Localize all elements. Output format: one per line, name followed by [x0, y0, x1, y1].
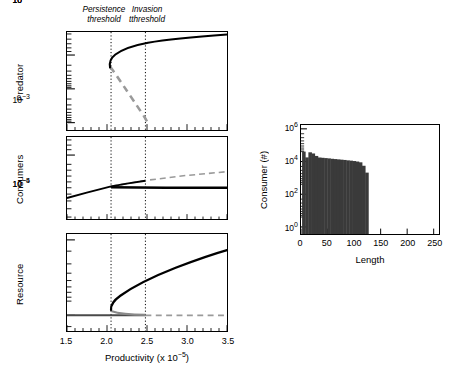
resource-panel: [66, 233, 228, 332]
xtick-4: 3.0: [181, 336, 194, 346]
xtick-1: 1.5: [60, 336, 73, 346]
length-axis-title: Length: [300, 254, 440, 265]
consumers-plot-area: [67, 137, 227, 219]
predator-unstable-branch: [110, 67, 148, 123]
length-xtick-6: 250: [427, 238, 442, 248]
length-xtick-labels: 0 50 100 150 200 250: [300, 238, 440, 250]
predator-stable-branch: [110, 35, 227, 68]
invasion-threshold-label-line1: Invasion: [132, 5, 163, 14]
length-xtick-2: 50: [322, 238, 332, 248]
persistence-threshold-label-line2: threshold: [87, 15, 121, 24]
consumer-count-ytick-labels: 106 104 102 100: [270, 124, 298, 235]
consumer-length-histogram-figure: Consumer (#) 106 104 102 100: [250, 0, 453, 378]
predator-plot-area: [67, 32, 227, 130]
predator-x-ticks: [67, 124, 227, 130]
length-xtick-3: 100: [346, 238, 361, 248]
xtick-2: 2.0: [100, 336, 113, 346]
predator-axis-title: Predator: [14, 44, 25, 120]
xtick-5: 3.5: [222, 336, 235, 346]
consumer-length-histogram-panel: [300, 124, 440, 235]
invasion-threshold-label-line2: tthreshold: [129, 15, 165, 24]
productivity-axis-title: Productivity (x 10−5): [66, 352, 228, 363]
invasion-threshold-label: Invasion tthreshold: [129, 5, 165, 25]
histogram-bars: [302, 152, 369, 234]
resource-plot-area: [67, 234, 227, 331]
consumers-y-minor-ticks: [67, 140, 71, 217]
productivity-xtick-labels: 1.5 2.0 2.5 3.0 3.5: [66, 336, 228, 348]
bifurcation-figure: Persistence threshold Invasion tthreshol…: [0, 0, 250, 378]
length-xtick-5: 200: [400, 238, 415, 248]
length-xtick-4: 150: [373, 238, 388, 248]
resource-upper-branch: [111, 250, 227, 310]
resource-axis-title: Resource: [14, 246, 25, 322]
resource-x-ticks: [67, 325, 227, 331]
predator-y-minor-ticks: [67, 34, 71, 121]
consumers-panel: [66, 136, 228, 220]
predator-panel: [66, 31, 228, 131]
consumers-x-ticks: [67, 214, 227, 219]
persistence-threshold-label-line1: Persistence: [83, 5, 126, 14]
consumers-rising-branch: [67, 181, 145, 198]
consumer-count-axis-title: Consumer (#): [258, 130, 269, 230]
length-xtick-1: 0: [297, 238, 302, 248]
persistence-threshold-label: Persistence threshold: [83, 5, 126, 25]
xtick-3: 2.5: [141, 336, 154, 346]
